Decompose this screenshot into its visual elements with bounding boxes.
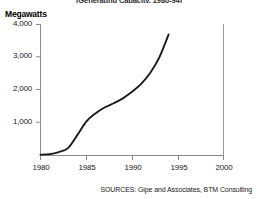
data-series-line bbox=[41, 34, 169, 154]
x-tick-label-1980: 1980 bbox=[24, 163, 58, 172]
x-tick-label-1995: 1995 bbox=[162, 163, 196, 172]
x-tick-label-1990: 1990 bbox=[116, 163, 150, 172]
y-axis-ticks bbox=[36, 25, 40, 123]
y-tick-label-1000: 1,000 bbox=[4, 117, 32, 126]
y-tick-label-2000: 2,000 bbox=[4, 84, 32, 93]
y-tick-label-3000: 3,000 bbox=[4, 51, 32, 60]
source-note: SOURCES: Gipe and Associates, BTM Consul… bbox=[0, 186, 252, 193]
chart-figure: (Generating Capacity, 1980-94) Megawatts… bbox=[0, 0, 258, 199]
x-tick-label-2000: 2000 bbox=[207, 163, 241, 172]
x-tick-label-1985: 1985 bbox=[70, 163, 104, 172]
y-tick-label-4000: 4,000 bbox=[4, 19, 32, 28]
